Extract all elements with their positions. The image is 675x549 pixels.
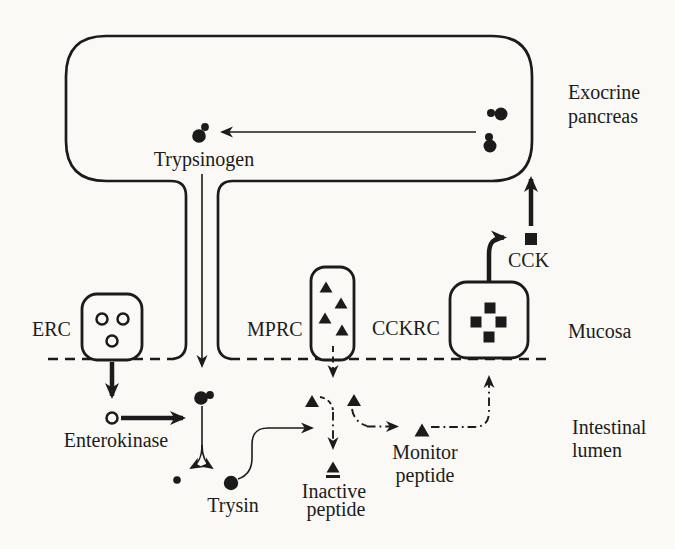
- monitor-peptide-label-line2: peptide: [396, 464, 455, 487]
- exocrine-pancreas-label-line2: pancreas: [568, 105, 638, 128]
- mprc-label: MPRC: [247, 318, 303, 340]
- fork-left-arrow: [191, 445, 202, 468]
- cckrc-release-arrow: [489, 238, 504, 284]
- figure: Exocrine pancreas Trypsinogen ERC MPRC C…: [0, 0, 675, 549]
- intestinal-lumen-label-line1: Intestinal: [572, 416, 647, 438]
- monitor-peptide-right-symbol: [347, 394, 361, 406]
- inactive-peptide-symbol: [326, 462, 340, 477]
- pancreas-feedback-diagram: Exocrine pancreas Trypsinogen ERC MPRC C…: [0, 0, 675, 549]
- trypsinogen-label: Trypsinogen: [154, 148, 254, 171]
- monitor-peptide-symbol: [415, 424, 430, 437]
- mucosa-label: Mucosa: [568, 320, 631, 342]
- enterokinase-label: Enterokinase: [64, 429, 169, 451]
- trypsinogen-in-lumen-symbol: [194, 391, 214, 405]
- cleavage-curve: [320, 397, 333, 410]
- erc-granule-3: [107, 336, 118, 347]
- trysin-label: Trysin: [207, 494, 259, 517]
- cleaved-fragment-dot: [173, 476, 181, 484]
- monitor-to-cckrc-arrow: [431, 377, 489, 427]
- trypsinogen-symbol: [192, 123, 209, 143]
- cckrc-cck-4: [484, 332, 495, 343]
- cck-symbol: [525, 233, 537, 245]
- cckrc-cck-2: [471, 317, 482, 328]
- monitor-path-curve: [352, 409, 367, 426]
- erc-box: [82, 294, 142, 360]
- erc-label: ERC: [32, 318, 71, 340]
- zymogen-granule-right-upper: [487, 108, 508, 121]
- erc-granule-1: [97, 314, 108, 325]
- monitor-peptide-left-symbol: [305, 395, 319, 407]
- fork-right-arrow: [202, 445, 212, 468]
- cck-label: CCK: [508, 249, 550, 271]
- trysin-symbol: [224, 476, 238, 490]
- cckrc-cck-1: [485, 303, 496, 314]
- trysin-cleavage-arrow: [238, 428, 312, 479]
- zymogen-granule-right-lower: [484, 133, 497, 153]
- cckrc-cck-3: [496, 317, 507, 328]
- erc-granule-2: [118, 314, 129, 325]
- cckrc-label: CCKRC: [372, 317, 440, 339]
- monitor-peptide-label-line1: Monitor: [392, 441, 458, 463]
- exocrine-pancreas-label-line1: Exocrine: [568, 81, 640, 103]
- cckrc-box: [450, 282, 528, 358]
- enterokinase-symbol: [107, 413, 118, 424]
- intestinal-lumen-label-line2: lumen: [572, 439, 622, 461]
- inactive-peptide-label-line2: peptide: [307, 498, 366, 521]
